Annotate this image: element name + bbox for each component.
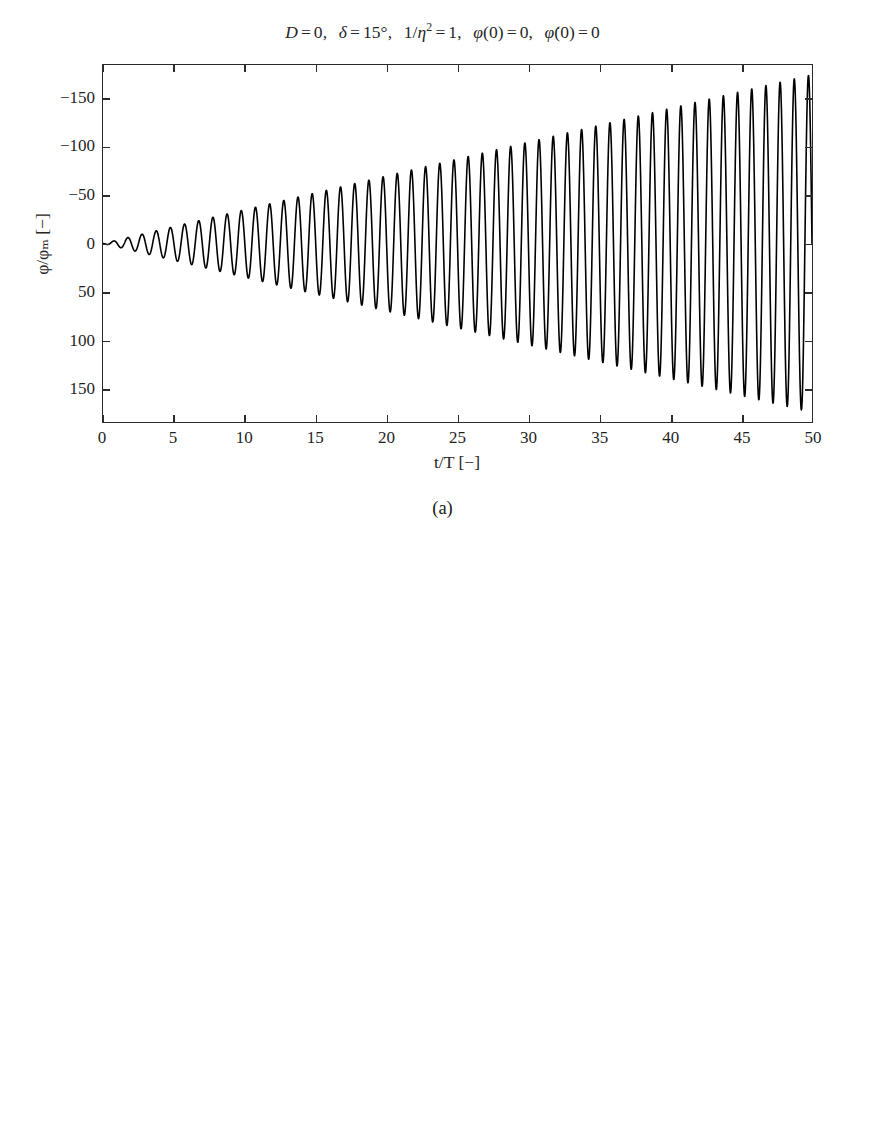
- x-tick-label-a: 10: [236, 428, 253, 448]
- y-tick-a: [103, 292, 110, 294]
- x-tick-label-a: 35: [591, 428, 608, 448]
- x-tick-a: [600, 65, 602, 72]
- x-tick-a: [671, 415, 673, 422]
- plot-title-a: D=0, δ=15°, 1/η2=1, φ(0)=0, φ̇(0)=0: [0, 22, 885, 43]
- title-a-eta-value: 1: [448, 22, 457, 42]
- x-tick-a: [316, 415, 318, 422]
- subfigure-a: D=0, δ=15°, 1/η2=1, φ(0)=0, φ̇(0)=0 1501…: [0, 0, 885, 545]
- x-tick-a: [742, 65, 744, 72]
- y-tick-a: [805, 244, 812, 246]
- y-tick-a: [805, 341, 812, 343]
- plot-area-a: [102, 64, 813, 423]
- x-tick-a: [529, 65, 531, 72]
- curve-path-a: [103, 75, 812, 409]
- y-tick-label-a: −100: [60, 136, 95, 156]
- x-axis-label-a: t/T [−]: [434, 452, 480, 473]
- y-tick-a: [103, 98, 110, 100]
- x-tick-label-a: 5: [169, 428, 178, 448]
- x-tick-label-a: 0: [98, 428, 107, 448]
- x-tick-a: [529, 415, 531, 422]
- y-tick-a: [103, 341, 110, 343]
- x-tick-label-a: 50: [805, 428, 822, 448]
- y-tick-a: [805, 389, 812, 391]
- x-tick-a: [244, 65, 246, 72]
- x-tick-a: [102, 415, 104, 422]
- x-tick-a: [102, 65, 104, 72]
- y-tick-label-a: 50: [78, 282, 95, 302]
- x-tick-a: [173, 415, 175, 422]
- y-tick-label-a: 150: [70, 379, 96, 399]
- y-tick-a: [805, 292, 812, 294]
- x-tick-a: [173, 65, 175, 72]
- title-a-phi0-symbol: φ: [473, 22, 483, 42]
- title-a-D-value: 0: [314, 22, 323, 42]
- subfigure-b: D=0.01, δ=30°, 1/η2=1, φ(0)=0, φ̇(0)=0 8…: [0, 560, 885, 1126]
- title-a-phidot0-symbol: φ̇: [545, 22, 555, 42]
- y-tick-a: [103, 195, 110, 197]
- x-tick-label-a: 40: [662, 428, 679, 448]
- subfigure-caption-a: (a): [0, 498, 885, 519]
- x-tick-a: [387, 415, 389, 422]
- x-tick-a: [244, 415, 246, 422]
- y-tick-a: [805, 147, 812, 149]
- x-tick-label-a: 15: [307, 428, 324, 448]
- y-axis-label-a: φ/φₘ [−]: [32, 213, 53, 275]
- y-tick-a: [103, 244, 110, 246]
- title-a-eta-symbol: η: [418, 22, 427, 42]
- y-tick-label-a: −50: [68, 185, 95, 205]
- x-tick-a: [458, 65, 460, 72]
- title-a-delta-symbol: δ: [339, 22, 347, 42]
- title-a-phi0-value: 0: [520, 22, 529, 42]
- x-tick-a: [600, 415, 602, 422]
- x-tick-label-a: 20: [378, 428, 395, 448]
- x-tick-a: [316, 65, 318, 72]
- y-tick-label-a: 0: [87, 234, 96, 254]
- x-tick-a: [458, 415, 460, 422]
- title-a-phidot0-value: 0: [591, 22, 600, 42]
- y-tick-label-a: 100: [70, 331, 96, 351]
- x-tick-label-a: 30: [520, 428, 537, 448]
- x-tick-a: [671, 65, 673, 72]
- y-tick-a: [805, 195, 812, 197]
- x-tick-label-a: 45: [733, 428, 750, 448]
- x-tick-label-a: 25: [449, 428, 466, 448]
- y-tick-label-a: −150: [60, 88, 95, 108]
- figure-page: D=0, δ=15°, 1/η2=1, φ(0)=0, φ̇(0)=0 1501…: [0, 0, 885, 1126]
- y-tick-a: [805, 98, 812, 100]
- x-tick-a: [387, 65, 389, 72]
- title-a-delta-value: 15°: [363, 22, 388, 42]
- x-tick-a: [742, 415, 744, 422]
- y-tick-a: [103, 147, 110, 149]
- y-tick-a: [103, 389, 110, 391]
- oscillation-curve-a: [103, 65, 812, 422]
